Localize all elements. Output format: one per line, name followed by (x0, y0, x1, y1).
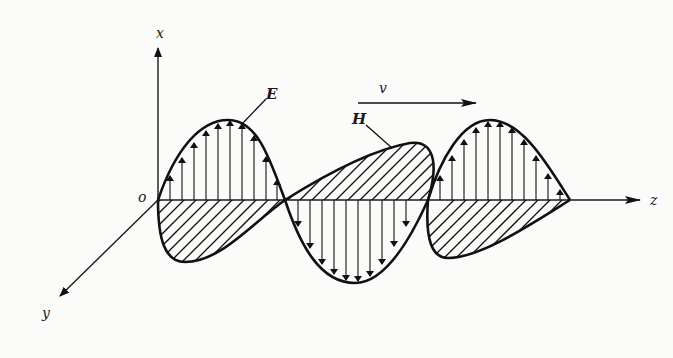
e-field-curve (158, 120, 570, 283)
velocity-label: v (379, 80, 387, 96)
em-wave-diagram: x z y o E H v (0, 0, 673, 358)
h-leader-line (366, 125, 392, 148)
x-axis-label: x (156, 25, 164, 41)
e-leader-line (242, 99, 266, 124)
h-field-label: H (351, 110, 367, 128)
e-field-label: E (265, 85, 278, 103)
y-axis-label: y (41, 305, 51, 321)
origin-label: o (138, 189, 146, 205)
y-axis (60, 200, 158, 296)
z-axis-label: z (649, 192, 658, 208)
